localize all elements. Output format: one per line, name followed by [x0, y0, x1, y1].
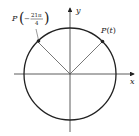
svg-text:21π: 21π [31, 12, 42, 18]
x-axis-label: x [130, 77, 135, 86]
radius-line-neg21pi4 [38, 42, 71, 75]
unit-circle-diagram: y x P(t) P ( − 21π 4 ) [0, 0, 139, 136]
point-t-label: P(t) [100, 26, 116, 35]
radius-line-t [70, 42, 103, 75]
svg-text:−: − [24, 15, 30, 23]
svg-text:): ) [44, 10, 49, 26]
point-neg21pi4-label: P ( − 21π 4 ) [11, 10, 49, 26]
svg-text:4: 4 [35, 20, 39, 26]
y-axis-label: y [75, 6, 81, 15]
label-leader-line [36, 29, 39, 40]
svg-text:P: P [11, 14, 18, 23]
diagram-canvas: y x P(t) P ( − 21π 4 ) [0, 0, 139, 136]
point-t [101, 40, 105, 44]
point-neg21pi4 [37, 39, 41, 43]
